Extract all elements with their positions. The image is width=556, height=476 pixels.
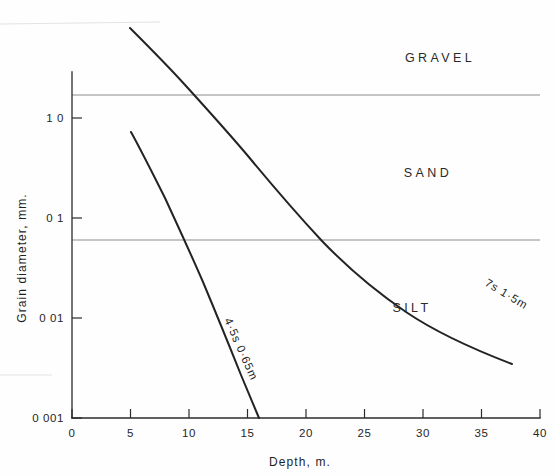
y-tick-label-2: 0 01 bbox=[39, 312, 64, 324]
data-curve-4p5s bbox=[131, 132, 259, 418]
y-tick-label-3: 0 001 bbox=[32, 412, 64, 424]
data-curve-7s bbox=[130, 28, 512, 364]
x-tick-label-4: 20 bbox=[299, 427, 313, 439]
region-label-gravel: GRAVEL bbox=[405, 51, 475, 65]
x-tick-label-7: 35 bbox=[475, 427, 489, 439]
chart-plot-area: 1 0 0 1 0 01 0 001 0 5 10 15 20 25 30 35… bbox=[0, 0, 556, 476]
chart-figure: 1 0 0 1 0 01 0 001 0 5 10 15 20 25 30 35… bbox=[0, 0, 556, 476]
x-axis-title: Depth, m. bbox=[269, 455, 331, 469]
x-tick-label-6: 30 bbox=[416, 427, 430, 439]
x-tick-label-3: 15 bbox=[241, 427, 255, 439]
curve-annotation-upper: 7s 1·5m bbox=[483, 276, 530, 311]
curve-annotation-lower: 4·5s 0·65m bbox=[222, 316, 260, 382]
x-tick-label-1: 5 bbox=[127, 427, 134, 439]
y-axis-title: Grain diameter, mm. bbox=[15, 193, 29, 323]
y-tick-label-1: 0 1 bbox=[46, 212, 64, 224]
x-tick-label-2: 10 bbox=[182, 427, 196, 439]
region-label-silt: SILT bbox=[392, 301, 431, 315]
scan-artifact-line-top bbox=[0, 22, 160, 24]
y-tick-label-0: 1 0 bbox=[46, 112, 64, 124]
x-tick-label-5: 25 bbox=[358, 427, 372, 439]
x-tick-label-8: 40 bbox=[533, 427, 547, 439]
region-label-sand: SAND bbox=[404, 166, 452, 180]
x-tick-label-0: 0 bbox=[69, 427, 76, 439]
